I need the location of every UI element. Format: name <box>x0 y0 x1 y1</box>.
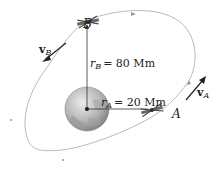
orbit-path <box>10 11 195 162</box>
radius-a-label: rA= 20 Mm <box>101 96 167 110</box>
orbit-diagram: B A vB vA rB= 80 Mm rA= 20 Mm <box>0 0 216 173</box>
orbit-arrow-top <box>131 12 136 16</box>
velocity-a-label: vA <box>196 86 209 100</box>
orbit-marker-left <box>10 119 12 121</box>
point-a-label: A <box>171 107 181 121</box>
radius-b-label: rB= 80 Mm <box>90 57 156 71</box>
velocity-b-label: vB <box>38 43 51 57</box>
orbit-marker-bottom <box>62 159 64 161</box>
point-b-label: B <box>82 17 92 31</box>
